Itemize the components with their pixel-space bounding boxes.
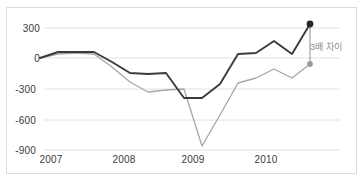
series-dark-line <box>40 24 310 98</box>
ytick-label-m300: -300 <box>6 84 36 95</box>
gap-annotation-label: 3배 차이 <box>310 40 343 53</box>
xtick-label-2007: 2007 <box>31 154 71 165</box>
ytick-label-0: 0 <box>10 53 40 64</box>
xtick-label-2008: 2008 <box>104 154 144 165</box>
ytick-label-300: 300 <box>10 23 40 34</box>
chart-figure: 300 0 -300 -600 -900 2007 2008 2009 2010… <box>0 0 364 182</box>
dark-end-marker <box>307 21 314 28</box>
xtick-label-2009: 2009 <box>173 154 213 165</box>
gray-end-marker <box>307 61 313 67</box>
xtick-label-2010: 2010 <box>246 154 286 165</box>
series-gray-line <box>40 53 310 146</box>
ytick-label-m600: -600 <box>6 115 36 126</box>
